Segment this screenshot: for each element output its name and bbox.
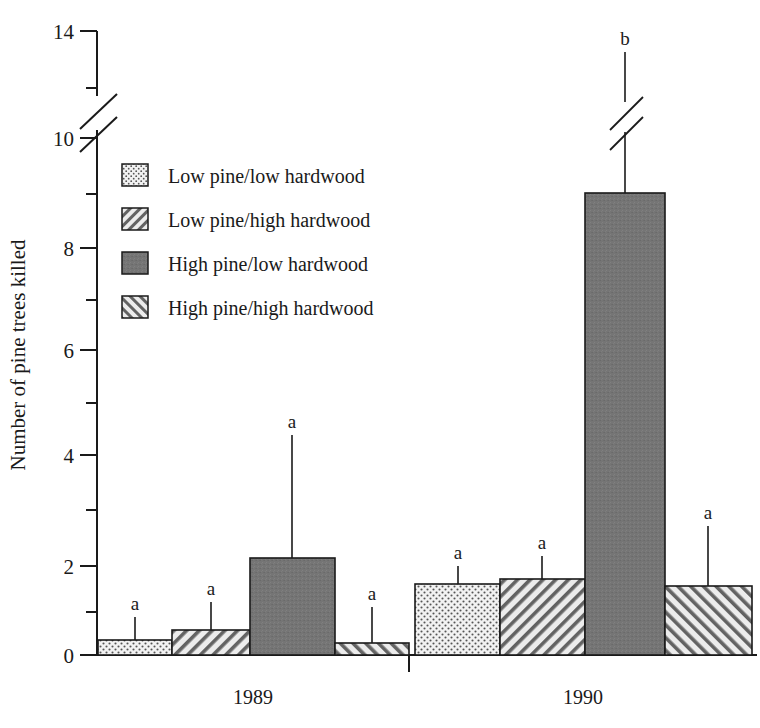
chart-figure: 14 10 8 6 4 2 0 Number of pine trees kil…	[0, 0, 760, 728]
bar-chart: 14 10 8 6 4 2 0 Number of pine trees kil…	[0, 0, 760, 728]
bar-1989-low-pine-high-hardwood[interactable]: a	[172, 578, 250, 655]
bar-1990-low-pine-low-hardwood[interactable]: a	[415, 542, 500, 655]
legend: Low pine/low hardwood Low pine/high hard…	[122, 164, 374, 320]
y-tick-label-14: 14	[53, 20, 75, 44]
bar-1989-low-pine-low-hardwood[interactable]: a	[98, 593, 172, 655]
legend-item-low-pine-high-hardwood[interactable]: Low pine/high hardwood	[122, 208, 370, 232]
y-tick-label-8: 8	[64, 237, 75, 261]
legend-swatch-solid-icon	[122, 252, 148, 274]
bar-group-1990: a a b	[415, 28, 752, 655]
legend-swatch-dots-icon	[122, 164, 148, 186]
sig-letter: a	[454, 542, 463, 563]
legend-item-low-pine-low-hardwood[interactable]: Low pine/low hardwood	[122, 164, 365, 188]
bar-1990-high-pine-low-hardwood[interactable]: b	[585, 28, 665, 655]
x-label-1990: 1990	[563, 686, 603, 708]
legend-label: High pine/low hardwood	[168, 253, 368, 276]
y-axis: 14 10 8 6 4 2 0 Number of pine trees kil…	[6, 20, 117, 668]
error-bar-break-icon	[610, 97, 643, 150]
legend-item-high-pine-low-hardwood[interactable]: High pine/low hardwood	[122, 252, 368, 276]
sig-letter: a	[368, 583, 377, 604]
y-tick-label-10: 10	[53, 127, 74, 151]
y-axis-break-icon	[80, 94, 117, 152]
sig-letter: a	[538, 532, 547, 553]
bar-1989-high-pine-low-hardwood[interactable]: a	[250, 411, 335, 655]
bar-1990-high-pine-high-hardwood[interactable]: a	[665, 502, 752, 655]
legend-label: Low pine/high hardwood	[168, 209, 370, 232]
legend-label: High pine/high hardwood	[168, 297, 374, 320]
y-tick-label-0: 0	[64, 644, 75, 668]
legend-swatch-hatch-forward-icon	[122, 208, 148, 230]
sig-letter: a	[131, 593, 140, 614]
sig-letter: a	[288, 411, 297, 432]
y-axis-title: Number of pine trees killed	[6, 239, 30, 470]
sig-letter: a	[704, 502, 713, 523]
bar-group-1989: a a a a	[98, 411, 409, 655]
sig-letter: b	[620, 28, 630, 49]
x-label-1989: 1989	[233, 686, 273, 708]
y-tick-label-2: 2	[64, 555, 75, 579]
legend-label: Low pine/low hardwood	[168, 165, 365, 188]
legend-swatch-hatch-back-icon	[122, 296, 148, 318]
y-tick-label-4: 4	[64, 444, 75, 468]
sig-letter: a	[207, 578, 216, 599]
legend-item-high-pine-high-hardwood[interactable]: High pine/high hardwood	[122, 296, 374, 320]
bar-1989-high-pine-high-hardwood[interactable]: a	[335, 583, 409, 655]
y-tick-label-6: 6	[64, 339, 75, 363]
bar-1990-low-pine-high-hardwood[interactable]: a	[500, 532, 585, 655]
x-axis: 1989 1990	[97, 655, 757, 708]
